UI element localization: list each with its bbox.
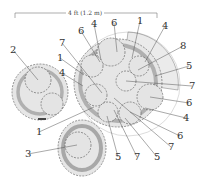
callout-number: 5 (115, 151, 121, 162)
callout-number: 4 (162, 20, 168, 31)
callout-number: 5 (154, 151, 160, 162)
callout-number: 7 (168, 141, 174, 152)
callout-number: 1 (36, 126, 42, 137)
callout-number: 6 (111, 17, 117, 28)
plant-2b (41, 93, 63, 115)
left-marker (38, 118, 46, 120)
callout-number: 7 (59, 37, 65, 48)
scale-bar: 4 ft (1.2 m) (15, 9, 157, 18)
callout-number: 1 (57, 52, 63, 63)
plant-4-left (81, 55, 103, 77)
leader-line (130, 112, 180, 136)
callout-number: 3 (25, 148, 31, 159)
callout-number: 7 (189, 80, 195, 91)
callout-number: 8 (180, 40, 186, 51)
callout-number: 5 (186, 60, 192, 71)
callout-number: 7 (134, 151, 140, 162)
callout-number: 4 (91, 18, 97, 29)
leader-line (125, 118, 157, 157)
callout-number: 1 (137, 15, 143, 26)
callout-number: 4 (183, 112, 189, 123)
scale-label: 4 ft (1.2 m) (68, 9, 102, 16)
callout-number: 6 (177, 130, 183, 141)
planting-plan-diagram: 4 ft (1.2 m) 646148572714136467575 (0, 0, 202, 193)
callout-number: 2 (10, 44, 16, 55)
leader-line (145, 108, 186, 118)
callout-number: 4 (59, 67, 65, 78)
bottom-planting-cluster (58, 120, 106, 176)
callout-number: 6 (78, 25, 84, 36)
callout-number: 6 (186, 97, 192, 108)
plant-3 (65, 132, 91, 158)
